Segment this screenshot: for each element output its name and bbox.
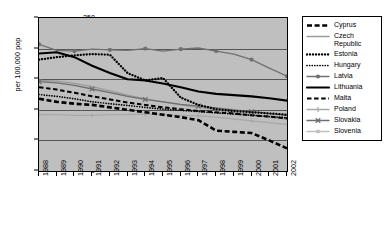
legend-item-slovakia[interactable]: Slovakia [306, 116, 378, 125]
legend-swatch-icon [306, 105, 330, 114]
x-tick-label: 1994 [147, 160, 156, 176]
x-tick-mark [38, 172, 39, 176]
x-tick-label: 1995 [165, 160, 174, 176]
legend-item-poland[interactable]: Poland [306, 105, 378, 114]
legend-item-slovenia[interactable]: Slovenia [306, 127, 378, 136]
legend-item-cyprus[interactable]: Cyprus [306, 21, 378, 30]
x-tick-label: 1989 [59, 160, 68, 176]
legend-swatch-icon [306, 61, 330, 70]
x-tick-label: 1993 [130, 160, 139, 176]
x-tick-label: 1992 [112, 160, 121, 176]
legend-label: Latvia [334, 72, 353, 80]
x-tick-mark [109, 172, 110, 176]
legend-label: Cyprus [334, 21, 356, 29]
legend-swatch-icon [306, 94, 330, 103]
series-layer [39, 18, 287, 171]
x-tick-label: 1999 [236, 160, 245, 176]
chart-root: per 100,000 pop 050100150200250 19881989… [0, 0, 386, 225]
x-tick-mark [73, 172, 74, 176]
legend-swatch-icon [306, 83, 330, 92]
legend-swatch-icon [306, 32, 330, 41]
x-tick-mark [215, 172, 216, 176]
series-latvia [39, 42, 287, 78]
legend-item-malta[interactable]: Malta [306, 94, 378, 103]
x-tick-mark [197, 172, 198, 176]
x-tick-mark [162, 172, 163, 176]
legend-swatch-icon [306, 127, 330, 136]
x-tick-mark [180, 172, 181, 176]
legend-label: Hungary [334, 61, 360, 69]
legend-item-lithuania[interactable]: Lithuania [306, 83, 378, 92]
x-tick-mark [144, 172, 145, 176]
y-axis-title: per 100,000 pop [13, 20, 22, 110]
legend: CyprusCzech RepublicEstoniaHungaryLatvia… [302, 16, 382, 141]
x-tick-mark [127, 172, 128, 176]
x-tick-label: 2002 [289, 160, 298, 176]
legend-label: Slovakia [334, 116, 360, 124]
x-tick-label: 1996 [183, 160, 192, 176]
legend-label: Lithuania [334, 83, 362, 91]
plot-area [38, 17, 288, 172]
x-tick-label: 1991 [94, 160, 103, 176]
x-tick-label: 1990 [76, 160, 85, 176]
x-tick-label: 2000 [254, 160, 263, 176]
x-tick-mark [286, 172, 287, 176]
legend-item-latvia[interactable]: Latvia [306, 72, 378, 81]
legend-item-hungary[interactable]: Hungary [306, 61, 378, 70]
legend-label: Estonia [334, 50, 357, 58]
x-tick-mark [91, 172, 92, 176]
series-cyprus [39, 99, 287, 149]
legend-item-estonia[interactable]: Estonia [306, 50, 378, 59]
x-tick-label: 1988 [41, 160, 50, 176]
legend-swatch-icon [306, 21, 330, 30]
x-tick-label: 2001 [271, 160, 280, 176]
x-tick-mark [56, 172, 57, 176]
legend-swatch-icon [306, 50, 330, 59]
legend-label: Malta [334, 94, 351, 102]
legend-swatch-icon [306, 116, 330, 125]
legend-swatch-icon [306, 72, 330, 81]
legend-label: Czech Republic [334, 32, 361, 48]
x-tick-mark [268, 172, 269, 176]
legend-label: Poland [334, 105, 356, 113]
x-tick-label: 1997 [200, 160, 209, 176]
x-tick-label: 1998 [218, 160, 227, 176]
legend-label: Slovenia [334, 127, 361, 135]
x-tick-mark [251, 172, 252, 176]
legend-item-czech-republic[interactable]: Czech Republic [306, 32, 378, 48]
x-tick-mark [233, 172, 234, 176]
